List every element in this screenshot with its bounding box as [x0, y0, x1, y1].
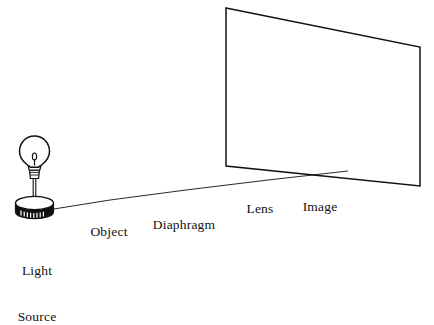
label-light-source-line2: Source — [6, 309, 68, 324]
projection-screen — [226, 8, 420, 186]
label-diaphragm: Diaphragm — [144, 218, 224, 233]
label-lens: Lens — [238, 202, 282, 217]
label-light-source: Light Source — [6, 233, 68, 325]
label-image: Image — [292, 200, 348, 215]
label-object: Object — [78, 225, 140, 240]
light-source-stand — [16, 196, 54, 218]
light-bulb — [20, 136, 50, 167]
label-light-source-line1: Light — [6, 263, 68, 278]
light-source-assembly — [16, 136, 54, 219]
bulb-screw-base — [28, 167, 40, 179]
